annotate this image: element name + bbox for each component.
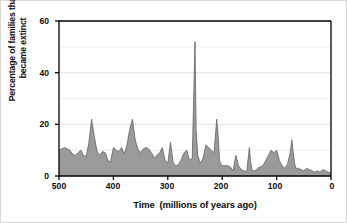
extinction-chart-figure: Percentage of families that became extin… <box>0 0 347 223</box>
plot-area <box>1 1 347 223</box>
